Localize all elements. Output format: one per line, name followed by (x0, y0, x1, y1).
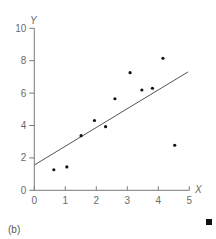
data-point (93, 119, 96, 122)
panel-label: (b) (8, 224, 20, 235)
x-axis-title: X (194, 184, 202, 195)
data-point (65, 165, 68, 168)
data-point (173, 144, 176, 147)
data-points (52, 57, 176, 172)
data-point (151, 87, 154, 90)
x-tick-label: 2 (94, 195, 100, 206)
data-point (161, 57, 164, 60)
regression-line (34, 72, 188, 165)
fit-line (34, 72, 188, 165)
x-tick-label: 0 (32, 195, 38, 206)
data-point (80, 134, 83, 137)
y-tick-label: 4 (21, 120, 27, 131)
data-point (128, 71, 131, 74)
data-point (104, 125, 107, 128)
data-point (140, 88, 143, 91)
axes (34, 28, 189, 190)
y-axis-title: Y (30, 15, 38, 26)
x-tick-label: 3 (125, 195, 131, 206)
axis-ticks: 0123450246810 (15, 23, 192, 207)
y-tick-label: 6 (21, 88, 27, 99)
y-tick-label: 10 (15, 23, 27, 34)
scatter-plot: 0123450246810 Y X (b) (0, 0, 216, 239)
x-tick-label: 1 (63, 195, 69, 206)
y-tick-label: 0 (21, 185, 27, 196)
end-of-caption-marker (206, 219, 212, 225)
data-point (52, 168, 55, 171)
x-tick-label: 5 (187, 195, 193, 206)
x-tick-label: 4 (156, 195, 162, 206)
y-tick-label: 2 (21, 152, 27, 163)
data-point (113, 97, 116, 100)
y-tick-label: 8 (21, 55, 27, 66)
